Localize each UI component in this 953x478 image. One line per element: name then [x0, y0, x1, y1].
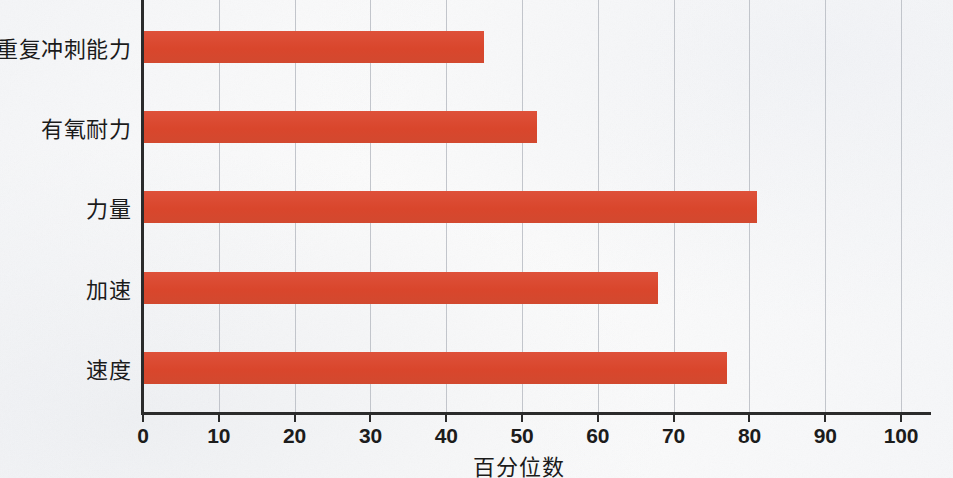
bar-chart-figure: 重复冲刺能力 有氧耐力 力量 加速 速度 0102030405060708090… [0, 0, 953, 478]
category-axis-labels: 重复冲刺能力 有氧耐力 力量 加速 速度 [0, 0, 131, 413]
category-label: 重复冲刺能力 [0, 31, 131, 63]
x-axis-tick [218, 413, 220, 422]
gridline [901, 0, 902, 413]
category-label: 有氧耐力 [41, 111, 131, 143]
category-label: 力量 [86, 191, 131, 223]
x-axis-tick [445, 413, 447, 422]
x-axis-tick-label: 50 [511, 424, 534, 448]
x-axis-tick-label: 80 [738, 424, 761, 448]
x-axis-title: 百分位数 [0, 449, 953, 478]
x-axis-tick [673, 413, 675, 422]
x-axis-tick-label: 10 [207, 424, 230, 448]
x-axis-title-text: 百分位数 [473, 455, 565, 478]
x-axis-tick [521, 413, 523, 422]
bar [143, 31, 484, 63]
category-label: 速度 [86, 352, 131, 384]
x-axis-tick-label: 100 [884, 424, 918, 448]
x-axis-tick-label: 70 [662, 424, 685, 448]
y-axis-line [141, 0, 144, 414]
x-axis-tick [748, 413, 750, 422]
x-axis-tick [369, 413, 371, 422]
x-axis-line [141, 412, 931, 415]
x-axis-tick [824, 413, 826, 422]
x-axis-tick-label: 0 [137, 424, 148, 448]
bar [143, 111, 537, 143]
bar [143, 352, 727, 384]
x-axis-tick-label: 40 [435, 424, 458, 448]
bar [143, 191, 757, 223]
bar [143, 272, 658, 304]
x-axis-tick-label: 60 [586, 424, 609, 448]
gridline [825, 0, 826, 413]
x-axis-tick-label: 20 [283, 424, 306, 448]
x-axis-tick [142, 413, 144, 422]
x-axis-tick [900, 413, 902, 422]
category-label: 加速 [86, 272, 131, 304]
x-axis-tick [597, 413, 599, 422]
x-axis-tick-label: 30 [359, 424, 382, 448]
plot-area [143, 0, 901, 413]
x-axis-tick [294, 413, 296, 422]
x-axis-tick-label: 90 [814, 424, 837, 448]
